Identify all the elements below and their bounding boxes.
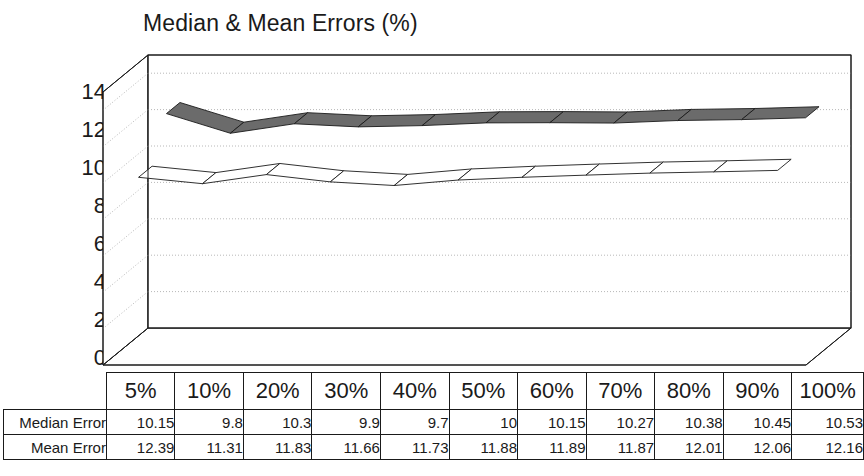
table-cell: 12.06 xyxy=(723,435,792,460)
table-cell: 10.15 xyxy=(518,410,587,435)
table-col-header: 60% xyxy=(518,373,587,410)
table-col-header: 90% xyxy=(723,373,792,410)
chart-back-wall xyxy=(148,55,851,328)
table-cell: 12.16 xyxy=(792,435,864,460)
table-col-header: 70% xyxy=(586,373,655,410)
table-col-header: 80% xyxy=(655,373,724,410)
table-row-label: Median Error xyxy=(4,410,107,435)
table-cell: 11.87 xyxy=(586,435,655,460)
table-cell: 10 xyxy=(449,410,518,435)
table-col-header: 20% xyxy=(243,373,312,410)
chart-floor xyxy=(103,328,851,365)
table-cell: 11.89 xyxy=(518,435,587,460)
table-cell: 10.27 xyxy=(586,410,655,435)
table-cell: 9.8 xyxy=(175,410,244,435)
data-table: 5%10%20%30%40%50%60%70%80%90%100% Median… xyxy=(3,372,864,460)
table-cell: 10.3 xyxy=(243,410,312,435)
table-cell: 9.7 xyxy=(380,410,449,435)
table-cell: 9.9 xyxy=(312,410,381,435)
table-cell: 11.66 xyxy=(312,435,381,460)
table-col-header: 50% xyxy=(449,373,518,410)
table-cell: 12.39 xyxy=(106,435,174,460)
table-cell: 10.45 xyxy=(723,410,792,435)
table-col-header: 5% xyxy=(106,373,174,410)
chart-left-wall xyxy=(103,55,148,365)
table-cell: 12.01 xyxy=(655,435,724,460)
plot-3d-walls xyxy=(103,55,851,365)
plot-area xyxy=(0,0,864,380)
table-cell: 11.88 xyxy=(449,435,518,460)
table-cell: 10.53 xyxy=(792,410,864,435)
table-row-label: Mean Error xyxy=(4,435,107,460)
table-cell: 11.73 xyxy=(380,435,449,460)
table-corner-cell xyxy=(4,373,107,410)
table-col-header: 30% xyxy=(312,373,381,410)
chart-figure: Median & Mean Errors (%) 14 12 10 8 6 4 … xyxy=(0,0,864,476)
table-col-header: 100% xyxy=(792,373,864,410)
table-row: Median Error10.159.810.39.99.71010.1510.… xyxy=(4,410,864,435)
table-col-header: 40% xyxy=(380,373,449,410)
table-cell: 11.83 xyxy=(243,435,312,460)
table-cell: 10.38 xyxy=(655,410,724,435)
table-header-row: 5%10%20%30%40%50%60%70%80%90%100% xyxy=(4,373,864,410)
table-row: Mean Error12.3911.3111.8311.6611.7311.88… xyxy=(4,435,864,460)
table-col-header: 10% xyxy=(175,373,244,410)
table-cell: 10.15 xyxy=(106,410,174,435)
table-cell: 11.31 xyxy=(175,435,244,460)
